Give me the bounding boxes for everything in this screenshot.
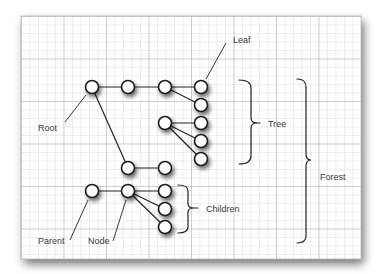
- parent-node: [86, 185, 99, 198]
- graph-paper: [21, 16, 361, 259]
- leaf-node: [195, 117, 208, 130]
- child-node: [159, 185, 172, 198]
- forest-label: Forest: [320, 172, 346, 182]
- leaf-label: Leaf: [233, 35, 251, 45]
- node-node: [122, 185, 135, 198]
- child-node: [159, 203, 172, 216]
- tree-node: [159, 81, 172, 94]
- parent-label: Parent: [38, 236, 65, 246]
- child-node: [159, 221, 172, 234]
- tree-node: [159, 117, 172, 130]
- tree-diagram: Leaf Root Tree Forest Children Parent No…: [0, 0, 381, 274]
- leaf-node: [159, 162, 172, 175]
- leaf-node: [195, 99, 208, 112]
- leaf-node: [195, 81, 208, 94]
- children-label: Children: [206, 204, 240, 214]
- tree-node: [122, 162, 135, 175]
- node-label: Node: [88, 236, 110, 246]
- tree-label: Tree: [268, 119, 286, 129]
- leaf-node: [195, 135, 208, 148]
- tree-node: [122, 81, 135, 94]
- leaf-node: [195, 153, 208, 166]
- root-node: [86, 81, 99, 94]
- root-label: Root: [38, 123, 58, 133]
